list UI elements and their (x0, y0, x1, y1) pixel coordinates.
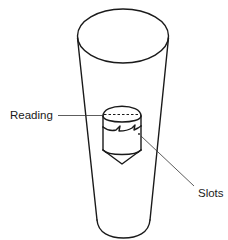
slot-mark (138, 133, 140, 135)
rotameter-diagram: Reading Slots (0, 0, 228, 240)
reading-callout: Reading (10, 109, 103, 121)
float-slots (103, 125, 141, 131)
tube-right-wall (150, 38, 169, 220)
float (103, 106, 141, 164)
float-top-cap-lower (103, 116, 141, 122)
slots-leader-line (141, 136, 194, 186)
tube-top-opening (78, 9, 169, 63)
tapered-tube (78, 9, 169, 238)
slots-label: Slots (198, 187, 224, 199)
reading-label: Reading (10, 109, 53, 121)
tube-bottom (97, 220, 150, 238)
tube-left-wall (78, 38, 98, 220)
float-cone (103, 150, 141, 164)
